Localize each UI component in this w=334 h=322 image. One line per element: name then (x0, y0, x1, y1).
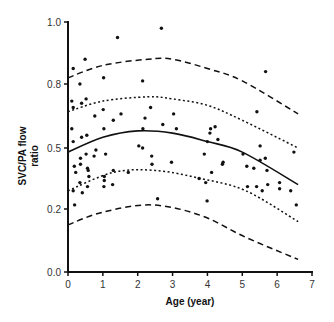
data-point (127, 171, 130, 174)
data-point (175, 127, 178, 130)
data-point (197, 177, 200, 180)
data-point (206, 140, 209, 143)
data-point (87, 169, 90, 172)
data-point (73, 165, 76, 168)
y-ticks: 0.00.20.50.81.0 (47, 17, 68, 278)
data-point (264, 70, 267, 73)
data-point (92, 154, 95, 157)
x-axis-title: Age (year) (166, 296, 215, 307)
data-point (208, 131, 211, 134)
data-point (143, 116, 146, 119)
data-point (102, 185, 105, 188)
x-tick-label: 3 (170, 279, 176, 290)
data-point (94, 148, 97, 151)
data-points (70, 27, 298, 207)
x-ticks: 01234567 (65, 272, 315, 290)
data-point (112, 169, 115, 172)
data-point (102, 127, 105, 130)
data-point (266, 183, 269, 186)
data-point (258, 159, 261, 162)
data-point (245, 165, 248, 168)
data-point (141, 127, 144, 130)
data-point (213, 125, 216, 128)
x-tick-label: 6 (274, 279, 280, 290)
x-tick-label: 0 (65, 279, 71, 290)
dotted-curve-lower-inner-band (68, 170, 298, 222)
data-point (160, 27, 163, 30)
data-point (79, 157, 82, 160)
data-point (93, 114, 96, 117)
data-point (84, 152, 87, 155)
data-point (83, 58, 86, 61)
dashed-curve-upper-outer-band (68, 58, 298, 114)
data-point (141, 146, 144, 149)
data-point (150, 163, 153, 166)
data-point (261, 189, 264, 192)
data-point (84, 97, 87, 100)
data-point (103, 175, 106, 178)
y-tick-label: 0.8 (47, 79, 61, 90)
data-point (70, 127, 73, 130)
data-point (246, 185, 249, 188)
data-point (161, 123, 164, 126)
data-point (74, 171, 77, 174)
data-point (73, 203, 76, 206)
data-point (85, 134, 88, 137)
data-point (78, 181, 81, 184)
data-point (150, 154, 153, 157)
data-point (278, 181, 281, 184)
x-tick-label: 2 (135, 279, 141, 290)
data-point (86, 185, 89, 188)
dotted-curve-upper-inner-band (68, 97, 298, 148)
data-point (203, 152, 206, 155)
data-point (79, 163, 82, 166)
x-tick-label: 1 (100, 279, 106, 290)
scatter-chart: 0.00.20.50.81.0 01234567 Age (year) SVC/… (0, 0, 334, 322)
data-point (116, 36, 119, 39)
data-point (278, 187, 281, 190)
data-point (241, 152, 244, 155)
y-tick-label: 0.0 (47, 267, 61, 278)
data-point (72, 140, 75, 143)
data-point (172, 112, 175, 115)
data-point (80, 102, 83, 105)
data-point (216, 138, 219, 141)
data-point (80, 136, 83, 139)
y-tick-label: 0.5 (47, 143, 61, 154)
data-point (265, 169, 268, 172)
data-point (252, 167, 255, 170)
x-tick-label: 5 (240, 279, 246, 290)
x-tick-label: 7 (309, 279, 315, 290)
data-point (264, 157, 267, 160)
dashed-curve-lower-outer-band (68, 205, 298, 260)
data-point (292, 150, 295, 153)
data-point (72, 189, 75, 192)
data-point (156, 197, 159, 200)
data-point (141, 79, 144, 82)
data-point (221, 163, 224, 166)
y-tick-label: 1.0 (47, 17, 61, 28)
data-point (255, 110, 258, 113)
data-point (102, 108, 105, 111)
data-point (104, 152, 107, 155)
data-point (72, 67, 75, 70)
data-point (119, 112, 122, 115)
data-point (209, 127, 212, 130)
x-tick-label: 4 (205, 279, 211, 290)
data-point (210, 171, 213, 174)
data-point (78, 82, 81, 85)
data-point (255, 185, 258, 188)
data-point (205, 199, 208, 202)
data-point (87, 175, 90, 178)
data-point (70, 99, 73, 102)
y-tick-label: 0.2 (47, 204, 61, 215)
data-point (81, 191, 84, 194)
data-point (102, 76, 105, 79)
data-point (112, 119, 115, 122)
data-point (111, 183, 114, 186)
y-axis-title-line-1: SVC/PA flow (17, 126, 28, 185)
data-point (149, 106, 152, 109)
data-point (170, 161, 173, 164)
data-point (258, 144, 261, 147)
data-point (295, 203, 298, 206)
